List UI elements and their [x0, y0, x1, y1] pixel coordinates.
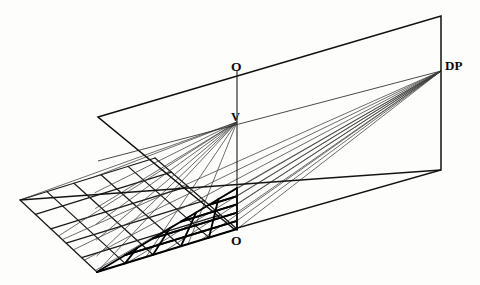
grid-line-width [47, 192, 125, 264]
label-vanishing-point: V [231, 110, 240, 124]
grid-line-width [101, 175, 181, 246]
diagram-canvas: O V O DP [0, 0, 480, 285]
grid-line-depth [82, 215, 221, 258]
perspective-diagram-figure: O V O DP [0, 0, 480, 285]
rays-to-distance-point [62, 71, 441, 270]
persp-diagonal [209, 196, 237, 205]
ray-to-DP-edge-2 [237, 71, 441, 213]
grid-line-depth [20, 158, 155, 200]
grid-line-width [155, 158, 237, 229]
label-o-top: O [231, 59, 242, 74]
ray-to-DP-edge-3 [237, 71, 441, 204]
ray-to-DP-5 [84, 71, 441, 260]
grid-line-width [128, 166, 209, 237]
persp-diagonal [125, 221, 237, 255]
grid-line-depth [35, 172, 171, 214]
ground-line [20, 170, 441, 200]
ray-to-DP-edge-5 [237, 71, 441, 188]
ray-to-DP-0 [237, 71, 441, 229]
label-o-bottom: O [231, 233, 242, 248]
label-distance-point: DP [445, 58, 462, 73]
ray-to-V-left-mid [59, 122, 238, 236]
